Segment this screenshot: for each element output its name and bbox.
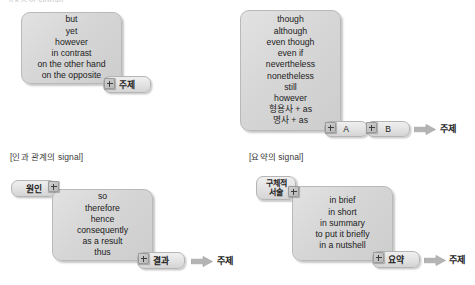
right-arrow-icon <box>191 256 213 267</box>
word-box-concession: though although even though even if neve… <box>240 10 341 131</box>
tag-label-line1: 구체적 <box>266 179 287 188</box>
word-line: so <box>98 191 107 202</box>
plus-icon <box>48 181 59 192</box>
plus-icon <box>366 122 377 133</box>
word-box-contrast: but yet however in contrast on the other… <box>21 12 122 84</box>
result-label-causality: 주제 <box>217 256 233 267</box>
plus-icon <box>373 252 384 263</box>
result-label-summary: 주제 <box>449 255 465 266</box>
section-header-causality: [인과 관계의 signal] <box>10 152 83 163</box>
word-line: however <box>274 93 307 104</box>
word-line: yet <box>66 26 78 37</box>
word-line: in summary <box>320 218 365 229</box>
word-line: although <box>274 26 307 37</box>
plus-icon <box>325 122 336 133</box>
tag-label: 주제 <box>119 80 135 90</box>
word-line: nevertheless <box>266 59 315 70</box>
word-line: hence <box>91 214 115 225</box>
word-line: though <box>277 14 304 25</box>
word-line: 형용사 + as <box>269 104 312 115</box>
tag-label: 원인 <box>26 184 42 194</box>
word-box-causality: so therefore hence consequently as a res… <box>52 189 153 261</box>
word-line: in short <box>328 207 357 218</box>
word-line: thus <box>94 247 110 258</box>
tag-label: 요약 <box>388 255 404 265</box>
word-line: to put it briefly <box>315 229 369 240</box>
word-line: still <box>284 82 297 93</box>
tag-label: B <box>385 124 391 134</box>
plus-icon <box>104 78 115 89</box>
word-line: but <box>65 14 77 25</box>
plus-icon <box>138 253 149 264</box>
result-label-concession: 주제 <box>440 124 456 135</box>
word-line: 명사 + as <box>273 115 308 126</box>
word-line: even if <box>278 48 304 59</box>
section-header-summary: [요약의 signal] <box>249 152 304 163</box>
word-line: in contrast <box>51 48 91 59</box>
word-line: on the opposite <box>42 70 101 81</box>
word-line: on the other hand <box>37 59 105 70</box>
word-line: nonetheless <box>267 71 314 82</box>
tag-label: 결과 <box>153 256 169 266</box>
right-arrow-icon <box>414 124 436 135</box>
diagram-canvas: [대조의 signal] but yet however in contrast… <box>0 0 475 285</box>
section-header-contrast: [대조의 signal] <box>9 0 129 2</box>
word-line: as a result <box>82 236 122 247</box>
word-line: in a nutshell <box>319 240 365 251</box>
word-line: even though <box>267 37 315 48</box>
plus-icon <box>288 186 299 197</box>
tag-label: A <box>343 124 349 134</box>
tag-label-line2: 서술 <box>269 188 283 197</box>
word-line: however <box>55 37 88 48</box>
right-arrow-icon <box>424 255 446 266</box>
word-line: consequently <box>77 225 128 236</box>
word-line: in brief <box>329 195 355 206</box>
word-box-summary: in brief in short in summary to put it b… <box>292 186 393 261</box>
word-line: therefore <box>85 203 120 214</box>
